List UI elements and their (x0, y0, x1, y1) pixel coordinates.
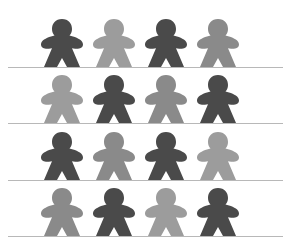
meeple-icon (40, 74, 84, 124)
meeple-icon (92, 131, 136, 181)
meeple-icon (196, 131, 240, 181)
meeple-icon (196, 187, 240, 237)
meeple-icon (196, 18, 240, 68)
meeple-icon (144, 131, 188, 181)
meeple-icon (92, 187, 136, 237)
row-1-baseline (8, 67, 283, 68)
meeple-icon (196, 74, 240, 124)
row-4-baseline (8, 236, 283, 237)
meeple-icon (144, 18, 188, 68)
meeple-icon (144, 74, 188, 124)
meeple-icon (40, 131, 84, 181)
meeple-icon (92, 74, 136, 124)
meeple-icon (92, 18, 136, 68)
meeple-icon (40, 187, 84, 237)
meeple-icon (40, 18, 84, 68)
row-3-baseline (8, 180, 283, 181)
row-2-baseline (8, 123, 283, 124)
meeple-icon (144, 187, 188, 237)
